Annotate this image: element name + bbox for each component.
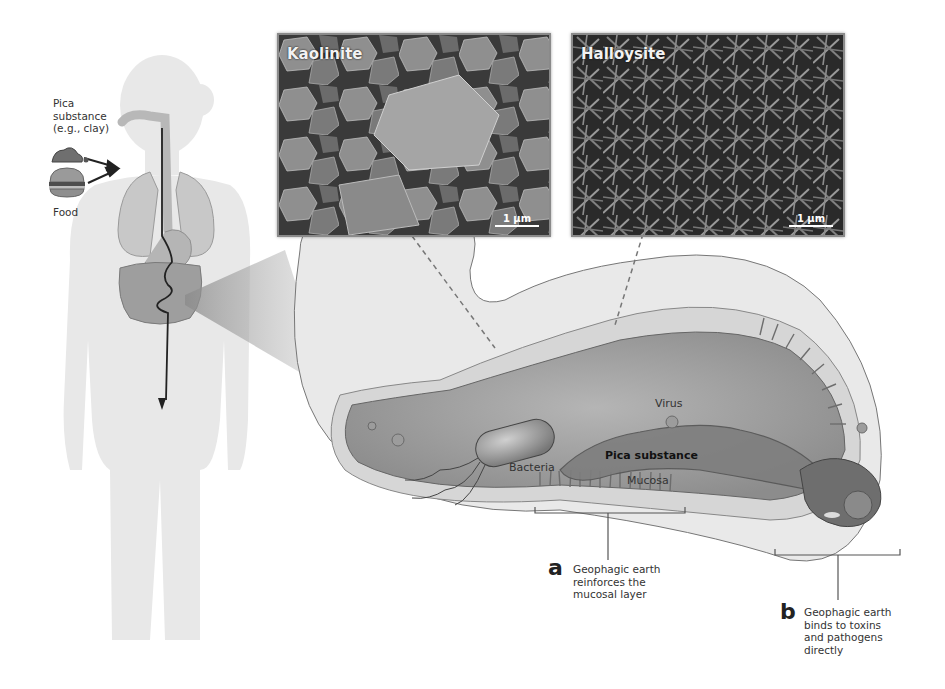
callout-line: reinforces the [573, 576, 660, 589]
pica-label-line: (e.g., clay) [53, 122, 109, 135]
mucosa-label: Mucosa [627, 474, 669, 487]
callout-text-a: Geophagic earth reinforces the mucosal l… [573, 563, 660, 601]
scale-label: 1 µm [503, 213, 531, 224]
virus-label: Virus [655, 397, 683, 410]
scale-label: 1 µm [797, 213, 825, 224]
callout-line: Geophagic earth [804, 606, 891, 619]
bacteria-label: Bacteria [509, 461, 555, 474]
callout-letter-a: a [548, 557, 563, 579]
callout-line: mucosal layer [573, 588, 660, 601]
callout-line: Geophagic earth [573, 563, 660, 576]
pica-substance-label-lumen: Pica substance [605, 449, 698, 462]
pica-label-line: substance [53, 110, 109, 123]
sem-title: Kaolinite [287, 45, 363, 63]
burger-icon [49, 168, 85, 197]
callout-line: directly [804, 644, 891, 657]
callout-line: binds to toxins [804, 619, 891, 632]
human-silhouette-icon [64, 55, 251, 640]
food-label: Food [53, 206, 78, 219]
scale-bar-line [495, 225, 539, 227]
callout-text-b: Geophagic earth binds to toxins and path… [804, 606, 891, 656]
callout-letter-b: b [780, 601, 796, 623]
sem-title: Halloysite [581, 45, 665, 63]
clay-icon [52, 148, 89, 163]
pica-substance-label: Pica substance (e.g., clay) [53, 97, 109, 135]
scale-bar-line [789, 225, 833, 227]
pica-label-line: Pica [53, 97, 109, 110]
scale-bar: 1 µm [789, 213, 833, 227]
callout-line: and pathogens [804, 631, 891, 644]
sem-image-halloysite: Halloysite 1 µm [571, 33, 845, 237]
kaolinite-texture [279, 35, 549, 235]
halloysite-texture [573, 35, 843, 235]
intake-arrows [84, 158, 118, 183]
scale-bar: 1 µm [495, 213, 539, 227]
sem-image-kaolinite: Kaolinite 1 µm [277, 33, 551, 237]
